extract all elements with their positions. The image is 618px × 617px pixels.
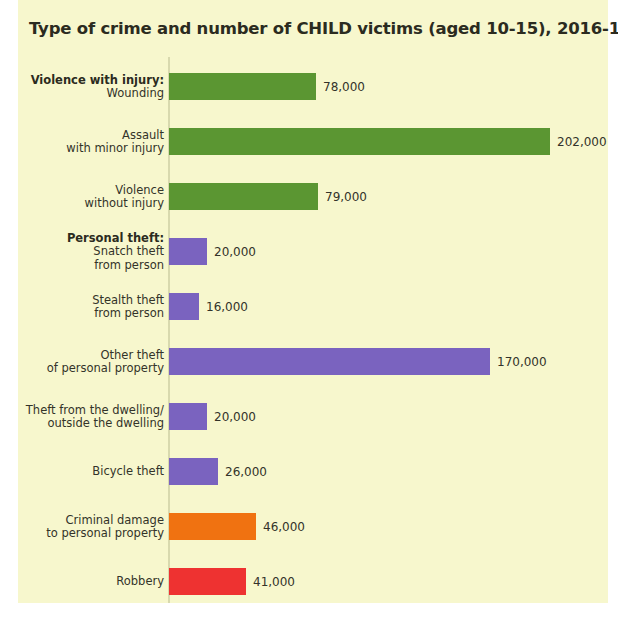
bar-row: Bicycle theft26,000 (18, 444, 608, 499)
bar-label-text: Wounding (107, 86, 164, 100)
bar (169, 348, 490, 375)
bar-value-label: 20,000 (214, 245, 256, 259)
bar-row: Robbery41,000 (18, 554, 608, 609)
bar-label-text: Robbery (116, 574, 164, 588)
bar-group-heading: Personal theft: (0, 231, 164, 245)
bar-value-label: 170,000 (497, 355, 547, 369)
bar-label-text: Theft from the dwelling/ outside the dwe… (26, 402, 164, 430)
bar-value-label: 26,000 (225, 465, 267, 479)
bar (169, 238, 207, 265)
plot-area: Violence with injury:Wounding78,000Assau… (18, 57, 608, 603)
bar-value-label: 16,000 (206, 300, 248, 314)
bar-label-text: Bicycle theft (92, 464, 164, 478)
bar-row: Theft from the dwelling/ outside the dwe… (18, 389, 608, 444)
chart-title: Type of crime and number of CHILD victim… (29, 19, 599, 38)
bar (169, 458, 218, 485)
bar (169, 293, 199, 320)
chart-figure: Type of crime and number of CHILD victim… (18, 0, 608, 603)
bar-category-label: Criminal damage to personal property (0, 513, 164, 540)
bar (169, 183, 318, 210)
bar (169, 568, 246, 595)
bar-label-text: Assault with minor injury (66, 127, 164, 155)
bar-category-label: Violence with injury:Wounding (0, 73, 164, 100)
bar-category-label: Personal theft:Snatch theft from person (0, 231, 164, 272)
bar-row: Violence with injury:Wounding78,000 (18, 59, 608, 114)
bar-value-label: 78,000 (323, 80, 365, 94)
bar-row: Stealth theft from person16,000 (18, 279, 608, 334)
bar-row: Other theft of personal property170,000 (18, 334, 608, 389)
bar-category-label: Robbery (0, 575, 164, 589)
bar-group-heading: Violence with injury: (0, 73, 164, 87)
bar-category-label: Assault with minor injury (0, 128, 164, 155)
bar-label-text: Other theft of personal property (47, 347, 164, 375)
bar-category-label: Other theft of personal property (0, 348, 164, 375)
bar-label-text: Stealth theft from person (92, 292, 164, 320)
bar (169, 73, 316, 100)
bar-row: Violence without injury79,000 (18, 169, 608, 224)
bar-category-label: Bicycle theft (0, 465, 164, 479)
bar-value-label: 202,000 (557, 135, 607, 149)
bar (169, 513, 256, 540)
bar-row: Personal theft:Snatch theft from person2… (18, 224, 608, 279)
bar (169, 128, 550, 155)
bar (169, 403, 207, 430)
bar-category-label: Stealth theft from person (0, 293, 164, 320)
bar-value-label: 41,000 (253, 575, 295, 589)
bar-label-text: Criminal damage to personal property (46, 512, 164, 540)
bar-value-label: 20,000 (214, 410, 256, 424)
bar-category-label: Violence without injury (0, 183, 164, 210)
bar-row: Assault with minor injury202,000 (18, 114, 608, 169)
bar-value-label: 46,000 (263, 520, 305, 534)
bar-label-text: Snatch theft from person (93, 244, 164, 272)
bar-category-label: Theft from the dwelling/ outside the dwe… (0, 403, 164, 430)
bar-row: Criminal damage to personal property46,0… (18, 499, 608, 554)
bar-label-text: Violence without injury (85, 182, 164, 210)
bar-value-label: 79,000 (325, 190, 367, 204)
